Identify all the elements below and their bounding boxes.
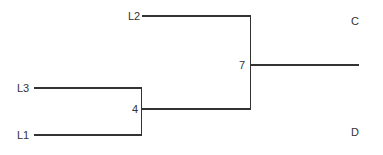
leaf-label-l3: L3 [17,82,29,94]
dendrogram: L2 7 L3 L1 4 C D [0,0,383,155]
node-label-7: 7 [239,59,245,71]
node-label-4: 4 [132,103,138,115]
side-label-d: D [351,126,359,138]
leaf-label-l2: L2 [128,10,140,22]
side-label-c: C [351,15,359,27]
leaf-label-l1: L1 [17,129,29,141]
